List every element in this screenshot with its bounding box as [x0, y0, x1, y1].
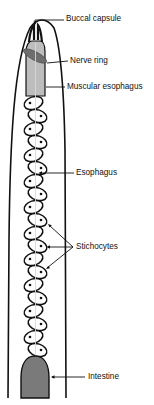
label-intestine: Intestine	[88, 372, 119, 382]
label-buccal-capsule: Buccal capsule	[66, 14, 121, 24]
stichocyte-nucleus	[29, 310, 32, 313]
stichocyte-nucleus	[40, 193, 43, 196]
stichocyte-nucleus	[29, 258, 32, 261]
leader-nerve-ring	[47, 61, 68, 63]
stichocyte-nucleus	[29, 232, 32, 235]
label-nerve-ring: Nerve ring	[70, 56, 108, 66]
stichocyte-nucleus	[40, 115, 43, 118]
label-esophagus: Esophagus	[76, 168, 117, 178]
stichocyte-nucleus	[40, 219, 43, 222]
stichocyte-nucleus	[29, 336, 32, 339]
stichocyte-nucleus	[29, 206, 32, 209]
stichocyte-nucleus	[40, 349, 43, 352]
stichocyte-nucleus	[29, 180, 32, 183]
label-muscular-esophagus: Muscular esophagus	[67, 82, 143, 92]
arrow-head-intestine	[51, 375, 55, 378]
leader-stichocytes-lower	[47, 247, 73, 268]
stichocyte-nucleus	[40, 245, 43, 248]
stichocyte-nucleus	[40, 141, 43, 144]
stichocyte-nucleus	[40, 167, 43, 170]
label-stichocytes: Stichocytes	[76, 242, 118, 252]
intestine	[21, 356, 49, 398]
stichocyte-nucleus	[40, 323, 43, 326]
stichocyte-nucleus	[29, 284, 32, 287]
stichocyte-nucleus	[40, 297, 43, 300]
stichocyte-nucleus	[29, 102, 32, 105]
leader-stichocytes-upper	[49, 225, 73, 247]
stichocyte-nucleus	[40, 271, 43, 274]
stichocyte-nucleus	[29, 128, 32, 131]
stichocyte-nucleus	[29, 154, 32, 157]
